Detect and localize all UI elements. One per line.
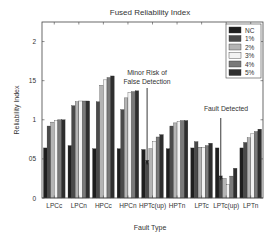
bar — [107, 78, 111, 198]
bar — [251, 134, 255, 198]
bar — [117, 149, 121, 198]
bar — [202, 147, 206, 198]
y-tick-label: 15 — [29, 77, 37, 84]
x-axis-label: Fault Type — [134, 224, 167, 232]
annotation-text: Minor Risk of — [127, 69, 167, 76]
legend-swatch — [229, 70, 241, 76]
bar — [128, 92, 132, 198]
legend-label: NC — [245, 27, 255, 34]
legend-swatch — [229, 44, 241, 50]
bar — [82, 101, 86, 198]
legend: NC1%2%3%4%5% — [226, 24, 261, 78]
bar — [258, 129, 262, 198]
bar — [142, 150, 146, 199]
bar — [160, 135, 164, 198]
annotation-text: False Detection — [123, 78, 170, 85]
y-tick-label: 2 — [32, 38, 36, 45]
bar — [173, 123, 177, 198]
bar — [79, 101, 83, 198]
x-tick-label: LPCn — [71, 202, 88, 209]
y-tick-label: 0 — [32, 195, 36, 202]
x-tick-label: HPCn — [119, 202, 137, 209]
bar — [86, 101, 90, 198]
legend-label: 3% — [245, 52, 255, 59]
x-tick-label: LPCc — [46, 202, 63, 209]
bar — [149, 149, 153, 198]
bar — [72, 106, 76, 198]
legend-swatch — [229, 53, 241, 59]
bar — [194, 142, 198, 198]
bar — [61, 120, 65, 198]
bar — [177, 121, 181, 198]
bar — [191, 148, 195, 198]
legend-label: 1% — [245, 35, 255, 42]
x-tick-label: HPCc — [95, 202, 113, 209]
x-tick-label: HPTn — [169, 202, 186, 209]
chart-title: Fused Reliability Index — [110, 8, 190, 17]
bar — [184, 121, 188, 198]
bar — [132, 92, 136, 198]
bar — [103, 80, 107, 198]
bar-chart: Fused Reliability Index Fault Type Relia… — [0, 0, 275, 238]
bar — [166, 149, 170, 198]
bar — [47, 126, 51, 198]
bar — [254, 132, 258, 198]
bar — [75, 102, 79, 198]
bar — [96, 102, 100, 198]
bar — [209, 143, 213, 198]
bar — [205, 146, 209, 198]
bars-group — [43, 76, 261, 198]
bar — [181, 121, 185, 198]
bar — [111, 76, 115, 198]
y-axis-label: Reliability Index — [13, 85, 21, 135]
bar — [54, 121, 58, 198]
legend-label: 5% — [245, 69, 255, 76]
bar — [230, 176, 234, 198]
bar — [43, 148, 47, 198]
x-tick-label: LPTc — [194, 202, 209, 209]
legend-swatch — [229, 27, 241, 33]
bar — [58, 120, 62, 198]
legend-swatch — [229, 61, 241, 67]
x-tick-label: HPTc(up) — [139, 202, 166, 210]
bar — [51, 122, 55, 198]
bar — [100, 85, 104, 198]
bar — [233, 168, 237, 198]
x-tick-label: LPTc(up) — [213, 202, 239, 210]
bar — [215, 148, 219, 198]
bar — [170, 126, 174, 198]
bar — [244, 142, 248, 198]
legend-label: 4% — [245, 61, 255, 68]
bar — [156, 137, 160, 198]
bar — [124, 98, 128, 198]
bar — [68, 146, 72, 198]
x-tick-label: LPTn — [243, 202, 259, 209]
bar — [121, 110, 125, 198]
bar — [223, 178, 227, 198]
bar — [145, 163, 149, 198]
y-tick-label: 1 — [32, 116, 36, 123]
annotation-text: Fault Detected — [204, 105, 248, 112]
bar — [198, 147, 202, 198]
bar — [135, 91, 139, 198]
legend-swatch — [229, 36, 241, 42]
bar — [153, 142, 157, 198]
bar — [240, 148, 244, 198]
bar — [226, 185, 230, 198]
legend-label: 2% — [245, 44, 255, 51]
bar — [247, 138, 251, 198]
bar — [93, 149, 97, 198]
y-tick-label: 05 — [29, 155, 37, 162]
